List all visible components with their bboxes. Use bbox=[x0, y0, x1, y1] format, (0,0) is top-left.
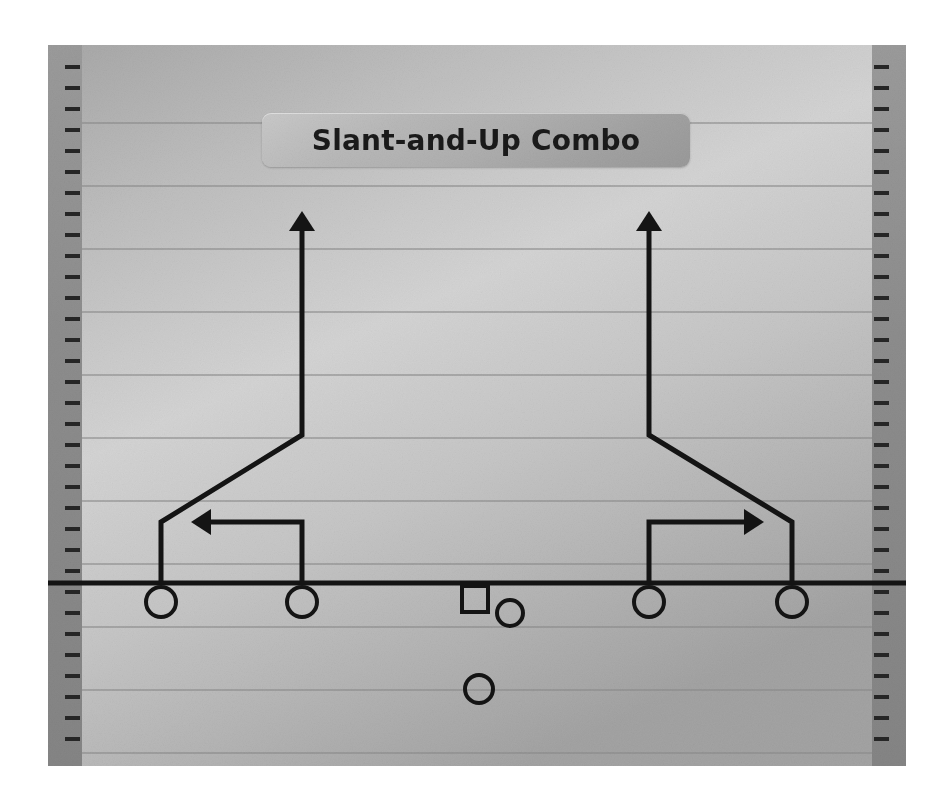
play-diagram-page: Slant-and-Up Combo bbox=[0, 0, 952, 803]
play-title-plate: Slant-and-Up Combo bbox=[262, 113, 690, 167]
play-title-text: Slant-and-Up Combo bbox=[312, 124, 640, 157]
sideline-left bbox=[48, 45, 82, 766]
sideline-right bbox=[872, 45, 906, 766]
